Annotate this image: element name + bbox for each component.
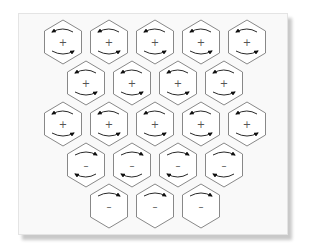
hex-cell: + bbox=[91, 20, 128, 64]
charge-sign: + bbox=[243, 37, 251, 48]
charge-sign: + bbox=[59, 119, 67, 130]
hex-cell: + bbox=[68, 61, 105, 105]
charge-sign: + bbox=[151, 119, 159, 130]
hex-cell: + bbox=[183, 102, 220, 146]
hex-cells: ++++++++++++++––––––– bbox=[45, 20, 266, 228]
hex-cell: – bbox=[137, 184, 174, 228]
hex-cell: + bbox=[114, 61, 151, 105]
hex-cell: + bbox=[45, 20, 82, 64]
charge-sign: – bbox=[176, 160, 181, 171]
hex-cell: – bbox=[114, 143, 151, 187]
charge-sign: – bbox=[130, 160, 135, 171]
charge-sign: + bbox=[174, 78, 182, 89]
hex-cell: + bbox=[183, 20, 220, 64]
charge-sign: + bbox=[151, 37, 159, 48]
hex-cell: – bbox=[91, 184, 128, 228]
hex-cell: – bbox=[206, 143, 243, 187]
charge-sign: + bbox=[105, 119, 113, 130]
charge-sign: + bbox=[128, 78, 136, 89]
hex-cell: + bbox=[160, 61, 197, 105]
hex-cell: + bbox=[229, 102, 266, 146]
hex-cell: + bbox=[229, 20, 266, 64]
charge-sign: + bbox=[243, 119, 251, 130]
charge-sign: – bbox=[84, 160, 89, 171]
charge-sign: + bbox=[82, 78, 90, 89]
hex-cell: – bbox=[160, 143, 197, 187]
charge-sign: + bbox=[59, 37, 67, 48]
charge-sign: – bbox=[107, 201, 112, 212]
charge-sign: – bbox=[199, 201, 204, 212]
hex-cell-diagram: ++++++++++++++––––––– bbox=[0, 0, 309, 248]
hex-cell: – bbox=[68, 143, 105, 187]
hex-cell: + bbox=[137, 102, 174, 146]
charge-sign: + bbox=[197, 119, 205, 130]
charge-sign: + bbox=[197, 37, 205, 48]
hex-cell: + bbox=[91, 102, 128, 146]
charge-sign: + bbox=[105, 37, 113, 48]
hex-cell: + bbox=[45, 102, 82, 146]
hex-cell: + bbox=[137, 20, 174, 64]
charge-sign: – bbox=[222, 160, 227, 171]
hex-cell: – bbox=[183, 184, 220, 228]
charge-sign: – bbox=[153, 201, 158, 212]
charge-sign: + bbox=[220, 78, 228, 89]
hex-cell: + bbox=[206, 61, 243, 105]
